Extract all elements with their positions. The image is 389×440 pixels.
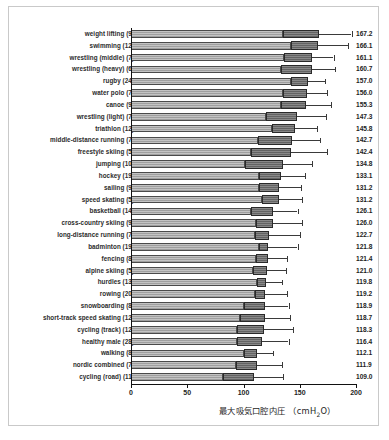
whisker-cap [317, 126, 318, 132]
bar-row: middle-distance running (7)142.7 [0, 135, 389, 145]
whisker-cap [312, 161, 313, 167]
bar-segment-base [131, 243, 259, 251]
value-label: 111.9 [356, 360, 388, 370]
bar-segment-box [262, 195, 279, 204]
category-label: cycling (track) (12) [14, 325, 134, 335]
bar-segment-base [131, 219, 256, 227]
bar-row: long-distance running (7)122.7 [0, 230, 389, 240]
bar-row: fencing (8)121.4 [0, 254, 389, 264]
bar-graphic [131, 372, 356, 382]
bar-row: wrestling (middle) (7)161.1 [0, 53, 389, 63]
x-tick-label: 200 [350, 389, 362, 396]
value-label: 121.8 [356, 242, 388, 252]
category-label: fencing (8) [14, 254, 134, 264]
category-label: snowboarding (8) [14, 301, 134, 311]
bar-segment-box [283, 89, 307, 98]
bar-segment-box [283, 30, 319, 39]
x-tick-mark [244, 384, 245, 388]
bar-segment-box [251, 148, 291, 157]
bar-row: speed skating (5)131.2 [0, 195, 389, 205]
bar-segment-box [257, 278, 266, 287]
whisker-line [312, 57, 333, 58]
bar-graphic [131, 29, 356, 39]
value-label: 145.8 [356, 124, 388, 134]
whisker-cap [273, 351, 274, 357]
bar-row: jumping (10)134.8 [0, 159, 389, 169]
value-label: 161.1 [356, 53, 388, 63]
category-label: wrestling (middle) (7) [14, 53, 134, 63]
value-label: 118.7 [356, 313, 388, 323]
bar-segment-base [131, 78, 291, 86]
value-label: 118.9 [356, 301, 388, 311]
category-label: speed skating (5) [14, 195, 134, 205]
bar-graphic [131, 159, 356, 169]
value-label: 167.2 [356, 29, 388, 39]
bar-row: weight lifting (9)167.2 [0, 29, 389, 39]
bar-row: healthy male (28)116.4 [0, 337, 389, 347]
value-label: 160.7 [356, 64, 388, 74]
whisker-cap [301, 185, 302, 191]
bar-graphic [131, 147, 356, 157]
bar-graphic [131, 135, 356, 145]
bar-graphic [131, 88, 356, 98]
whisker-line [257, 353, 273, 354]
bar-segment-box [240, 314, 264, 323]
bar-segment-base [131, 255, 256, 263]
value-label: 131.2 [356, 183, 388, 193]
whisker-cap [320, 138, 321, 144]
bar-graphic [131, 195, 356, 205]
whisker-line [273, 223, 302, 224]
whisker-cap [282, 362, 283, 368]
whisker-cap [305, 173, 306, 179]
bar-segment-base [131, 125, 272, 133]
bar-graphic [131, 266, 356, 276]
bar-row: rugby (24)157.0 [0, 76, 389, 86]
category-label: rugby (24) [14, 76, 134, 86]
bar-segment-box [223, 373, 253, 382]
bar-row: cross-country skiing (9)126.0 [0, 218, 389, 228]
bar-row: wrestling (heavy) (6)160.7 [0, 64, 389, 74]
whisker-line [257, 365, 282, 366]
bar-segment-base [131, 66, 281, 74]
whisker-cap [302, 220, 303, 226]
whisker-line [268, 247, 297, 248]
bar-segment-base [131, 302, 244, 310]
whisker-cap [287, 291, 288, 297]
bar-row: wrestling (light) (7)147.3 [0, 112, 389, 122]
bar-segment-box [256, 254, 268, 263]
bar-segment-base [131, 231, 255, 239]
bar-segment-base [131, 137, 258, 145]
whisker-line [279, 187, 301, 188]
bar-row: hurdles (13)119.8 [0, 277, 389, 287]
bar-graphic [131, 360, 356, 370]
bar-row: badminton (19)121.8 [0, 242, 389, 252]
x-tick-mark [131, 384, 132, 388]
bar-row: nordic combined (7)111.9 [0, 360, 389, 370]
whisker-line [273, 211, 298, 212]
whisker-line [308, 81, 325, 82]
whisker-cap [298, 209, 299, 215]
whisker-cap [286, 268, 287, 274]
bar-segment-box [236, 361, 257, 370]
value-label: 112.1 [356, 348, 388, 358]
bar-row: short-track speed skating (12)118.7 [0, 313, 389, 323]
whisker-line [307, 93, 327, 94]
whisker-line [265, 306, 289, 307]
bar-graphic [131, 112, 356, 122]
bar-segment-base [131, 361, 236, 369]
value-label: 142.4 [356, 147, 388, 157]
whisker-line [254, 377, 283, 378]
value-label: 134.8 [356, 159, 388, 169]
bar-segment-box [237, 325, 264, 334]
chart-plot-area: weight lifting (9)167.2swimming (12)166.… [0, 0, 389, 440]
bar-segment-box [259, 183, 278, 192]
value-label: 119.8 [356, 277, 388, 287]
whisker-line [318, 45, 348, 46]
bar-segment-box [259, 243, 268, 252]
bar-segment-base [131, 279, 257, 287]
bar-segment-box [244, 302, 265, 311]
category-label: long-distance running (7) [14, 230, 134, 240]
whisker-cap [293, 327, 294, 333]
bar-segment-box [244, 349, 258, 358]
bar-graphic [131, 183, 356, 193]
